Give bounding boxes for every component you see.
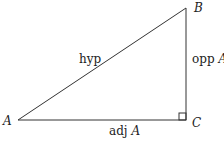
vertex-c-label: C [192, 117, 201, 129]
right-triangle [0, 0, 224, 141]
vertex-a-label: A [3, 115, 12, 127]
hypotenuse-side [18, 8, 186, 120]
opposite-label: opp A [192, 53, 224, 65]
hypotenuse-label: hyp [79, 53, 101, 65]
right-angle-marker [179, 113, 186, 120]
vertex-b-label: B [194, 2, 203, 14]
adjacent-label: adj A [109, 125, 140, 137]
